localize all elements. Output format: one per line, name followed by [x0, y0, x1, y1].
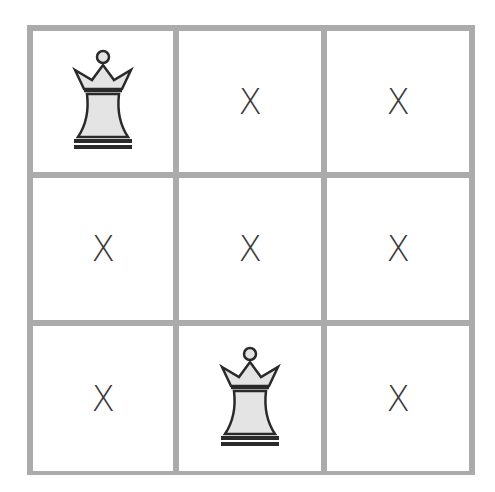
cell-r1-c0[interactable]: X — [33, 178, 173, 320]
cell-r0-c1[interactable]: X — [179, 31, 321, 172]
cell-r2-c0[interactable]: X — [33, 326, 173, 471]
x-mark: X — [238, 84, 261, 120]
queen-icon — [219, 346, 281, 452]
chess-board-3x3: X X X X X X X — [27, 25, 475, 475]
cell-r2-c1[interactable] — [179, 326, 321, 471]
cell-r1-c2[interactable]: X — [327, 178, 469, 320]
x-mark: X — [386, 231, 409, 267]
x-mark: X — [238, 231, 261, 267]
x-mark: X — [91, 231, 114, 267]
x-mark: X — [386, 381, 409, 417]
cell-r0-c2[interactable]: X — [327, 31, 469, 172]
x-mark: X — [386, 84, 409, 120]
cell-r2-c2[interactable]: X — [327, 326, 469, 471]
cell-r1-c1[interactable]: X — [179, 178, 321, 320]
cell-r0-c0[interactable] — [33, 31, 173, 172]
queen-icon — [72, 49, 134, 155]
x-mark: X — [91, 381, 114, 417]
